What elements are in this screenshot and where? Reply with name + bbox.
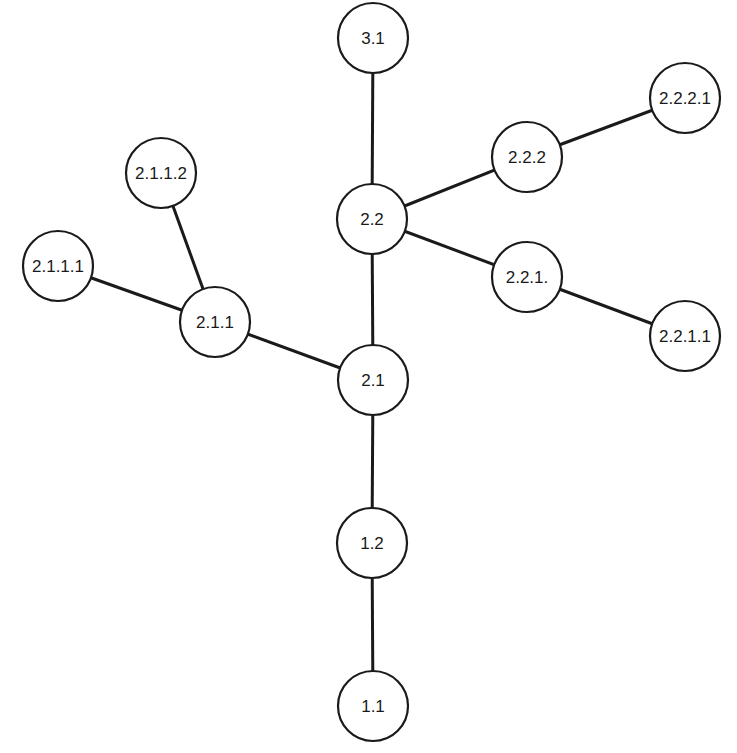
node-label: 1.1 bbox=[361, 697, 385, 716]
node-label: 2.2.1. bbox=[506, 268, 549, 287]
node-1-2: 1.2 bbox=[337, 508, 407, 578]
node-label: 2.1.1.2 bbox=[135, 164, 187, 183]
node-2-2-1-1: 2.2.1.1 bbox=[650, 301, 720, 371]
node-label: 1.2 bbox=[360, 534, 384, 553]
node-label: 2.1.1 bbox=[196, 313, 234, 332]
node-2-1-1: 2.1.1 bbox=[180, 287, 250, 357]
node-label: 2.2.1.1 bbox=[659, 327, 711, 346]
node-label: 2.1 bbox=[361, 371, 385, 390]
node-2-1-1-2: 2.1.1.2 bbox=[126, 138, 196, 208]
node-label: 2.2 bbox=[360, 210, 384, 229]
node-label: 2.2.2 bbox=[508, 148, 546, 167]
node-label: 3.1 bbox=[361, 29, 385, 48]
node-1-1: 1.1 bbox=[338, 671, 408, 741]
node-2-2: 2.2 bbox=[337, 184, 407, 254]
node-2-1-1-1: 2.1.1.1 bbox=[23, 231, 93, 301]
node-3-1: 3.1 bbox=[338, 3, 408, 73]
node-2-2-2-1: 2.2.2.1 bbox=[650, 63, 720, 133]
node-label: 2.2.2.1 bbox=[659, 89, 711, 108]
node-label: 2.1.1.1 bbox=[32, 257, 84, 276]
node-2-2-1: 2.2.1. bbox=[492, 242, 562, 312]
node-2-1: 2.1 bbox=[338, 345, 408, 415]
tree-diagram: 3.12.2.2.12.2.22.22.2.1.2.2.1.12.1.1.22.… bbox=[0, 0, 737, 753]
node-2-2-2: 2.2.2 bbox=[492, 122, 562, 192]
